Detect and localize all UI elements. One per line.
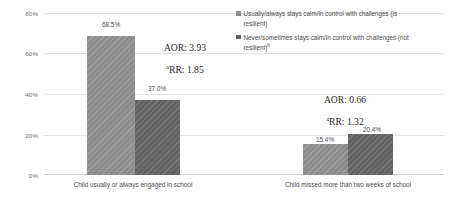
annotation-aor-group2: AOR: 0.66 xyxy=(324,94,366,105)
bar-group1-series1[interactable] xyxy=(87,36,135,175)
bar-value-label-group2-series2: 20.4% xyxy=(363,126,381,133)
y-tick-label-80: 80% xyxy=(25,10,38,17)
legend-label-resilient: Usually/always stays calm/in control wit… xyxy=(244,9,412,30)
y-tick-label-0: 0% xyxy=(29,172,38,179)
annotation-rr-text-group1: RR: 1.85 xyxy=(169,64,204,75)
annotation-rr-group1: aRR: 1.85 xyxy=(166,64,203,75)
annotation-rr-text-group2: RR: 1.32 xyxy=(329,116,364,127)
x-axis-label-group1: Child usually or always engaged in schoo… xyxy=(74,181,193,188)
legend: Usually/always stays calm/in control wit… xyxy=(236,9,444,57)
y-axis: 80% 60% 40% 20% 0% xyxy=(0,0,44,199)
bar-value-label-group1-series2: 37.0% xyxy=(148,85,166,92)
bar-value-label-group2-series1: 15.4% xyxy=(316,136,334,143)
annotation-aor-group1: AOR: 3.93 xyxy=(164,42,206,53)
y-tick-label-40: 40% xyxy=(25,91,38,98)
bar-group2-series1[interactable] xyxy=(303,144,348,175)
y-tick-label-20: 20% xyxy=(25,132,38,139)
legend-label-not-resilient: Never/sometimes stays calm/in control wi… xyxy=(244,33,412,54)
bar-chart: 80% 60% 40% 20% 0% 68.5% 37.0% 15.4% 20.… xyxy=(0,0,452,199)
legend-item-resilient[interactable]: Usually/always stays calm/in control wit… xyxy=(236,9,444,30)
bar-value-label-group1-series1: 68.5% xyxy=(102,21,120,28)
y-tick-label-60: 60% xyxy=(25,50,38,57)
bar-group2-series2[interactable] xyxy=(348,134,393,175)
legend-swatch-icon-resilient xyxy=(236,11,241,16)
legend-swatch-icon-not-resilient xyxy=(236,35,241,40)
annotation-rr-group2: aRR: 1.32 xyxy=(326,116,363,127)
legend-label-superscript-not-resilient: b xyxy=(267,43,270,48)
legend-item-not-resilient[interactable]: Never/sometimes stays calm/in control wi… xyxy=(236,33,444,54)
x-axis-label-group2: Child missed more than two weeks of scho… xyxy=(285,181,411,188)
bar-group1-series2[interactable] xyxy=(135,100,180,175)
